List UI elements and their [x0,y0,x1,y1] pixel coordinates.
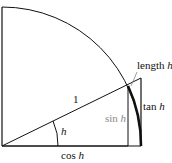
angle-label: h [61,126,67,137]
radius-label: 1 [73,94,79,105]
arc-length-label: length h [137,60,172,71]
tan-label: tan h [143,101,165,112]
diagram-graphic [0,0,172,163]
unit-circle-diagram: 1 h sin h cos h tan h length h [0,0,172,163]
sin-label: sin h [105,113,126,124]
quarter-circle-arc [2,7,141,146]
arc-label-pointer [131,72,137,86]
cos-label: cos h [61,150,84,161]
arc-length-h [128,86,141,146]
angle-arc [53,121,58,146]
